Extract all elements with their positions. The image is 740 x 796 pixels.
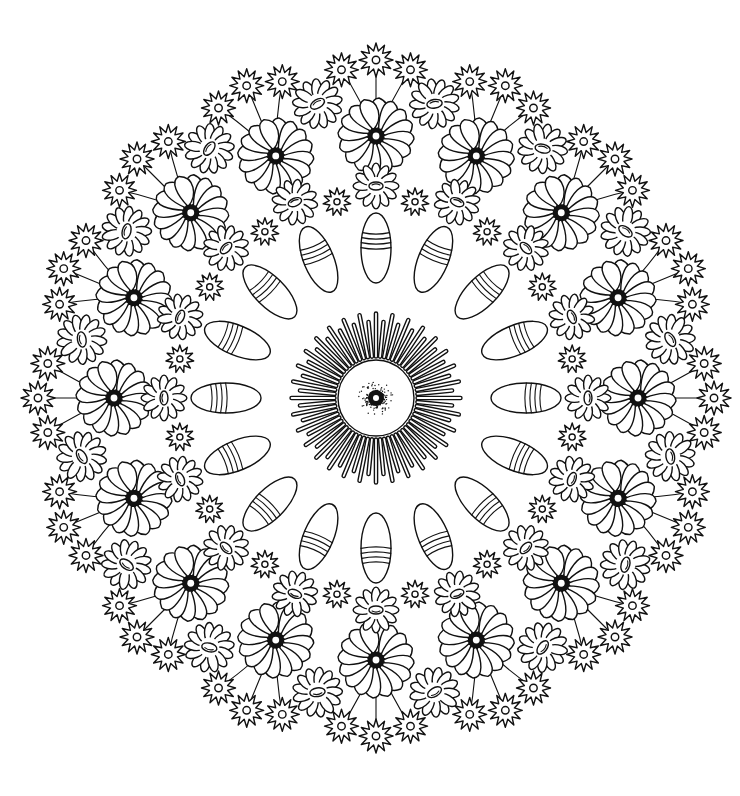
- mandala-root: [21, 43, 731, 753]
- mandala-illustration: [0, 0, 740, 796]
- center-hub: [338, 360, 414, 436]
